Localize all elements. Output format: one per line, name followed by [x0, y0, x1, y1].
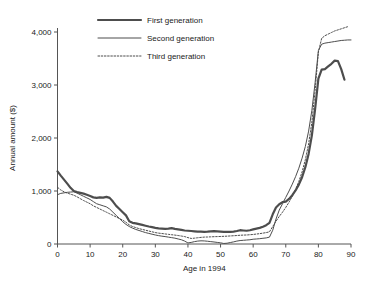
legend-label-1: First generation: [147, 16, 203, 25]
series-line-1: [58, 61, 345, 232]
x-tick-label: 0: [55, 250, 60, 259]
y-tick-label: 1,000: [31, 187, 52, 196]
x-tick-label: 50: [216, 250, 225, 259]
x-tick-label: 70: [281, 250, 290, 259]
chart-legend: First generationSecond generationThird g…: [98, 16, 214, 61]
series-line-2: [58, 40, 352, 244]
x-tick-label: 40: [183, 250, 192, 259]
x-tick-label: 10: [86, 250, 95, 259]
y-tick-label: 0: [47, 240, 52, 249]
x-tick-label: 80: [314, 250, 323, 259]
x-tick-label: 60: [249, 250, 258, 259]
legend-label-3: Third generation: [147, 52, 205, 61]
legend-label-2: Second generation: [147, 34, 214, 43]
x-tick-label: 20: [118, 250, 127, 259]
x-tick-label: 30: [151, 250, 160, 259]
chart-figure: 01,0002,0003,0004,0000102030405060708090…: [0, 0, 368, 281]
x-axis-title: Age in 1994: [183, 264, 226, 273]
y-tick-label: 3,000: [31, 81, 52, 90]
axes: 01,0002,0003,0004,0000102030405060708090: [31, 28, 356, 259]
y-tick-label: 2,000: [31, 134, 52, 143]
y-tick-label: 4,000: [31, 28, 52, 37]
x-tick-label: 90: [347, 250, 356, 259]
y-axis-title: Annual amount ($): [8, 105, 17, 171]
line-chart: 01,0002,0003,0004,0000102030405060708090…: [0, 0, 368, 281]
